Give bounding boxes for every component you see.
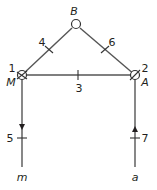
label-edge-6: 6 [109, 36, 116, 49]
label-node-M: M [6, 76, 16, 89]
label-node-B: B [70, 5, 78, 18]
arrow-up-icon [132, 126, 138, 132]
label-edge-3: 3 [76, 82, 83, 95]
edge-6 [80, 28, 135, 75]
label-node-m: m [17, 171, 28, 184]
node-M [17, 71, 27, 80]
label-node-a: a [132, 171, 139, 184]
label-node-A-number: 2 [142, 62, 149, 75]
arrow-down-icon [19, 124, 25, 130]
node-A [130, 70, 140, 80]
network-diagram: B 1 M 2 A m a 3 4 6 5 7 [0, 0, 157, 190]
node-B [72, 20, 81, 29]
label-edge-7: 7 [142, 132, 149, 145]
label-edge-5: 5 [7, 132, 14, 145]
label-edge-4: 4 [39, 36, 46, 49]
label-node-M-number: 1 [9, 62, 16, 75]
edge-4 [22, 28, 72, 75]
label-node-A: A [140, 76, 149, 89]
